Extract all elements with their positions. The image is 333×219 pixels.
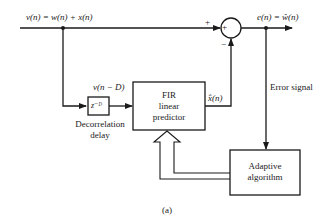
predictor-output-label: x̂(n) (208, 94, 223, 103)
plus-sign: + (205, 18, 210, 27)
coefficient-update-arrow (154, 131, 230, 179)
junction-dot-input (61, 26, 65, 30)
delay-caption-line1: Decorrelation (68, 120, 132, 129)
delay-caption-line2: delay (68, 131, 132, 140)
summing-symbol: + (222, 23, 227, 32)
adaptive-label-line2: algorithm (230, 173, 300, 182)
adaptive-label-line1: Adaptive (230, 162, 300, 171)
predictor-label-line2: linear (133, 102, 205, 111)
predictor-label-line1: FIR (133, 91, 205, 100)
branch-to-delay (63, 28, 86, 106)
junction-dot-output (264, 26, 268, 30)
minus-sign: − (221, 40, 226, 49)
figure-caption: (a) (162, 206, 172, 215)
delay-block-label: z⁻ᴰ (91, 102, 102, 110)
predictor-label-line3: predictor (133, 113, 205, 122)
delay-output-label: v(n − D) (93, 83, 125, 92)
output-label: e(n) = ŵ(n) (257, 13, 299, 22)
error-signal-label: Error signal (270, 83, 313, 92)
input-signal-label: v(n) = w(n) + x(n) (26, 13, 93, 22)
